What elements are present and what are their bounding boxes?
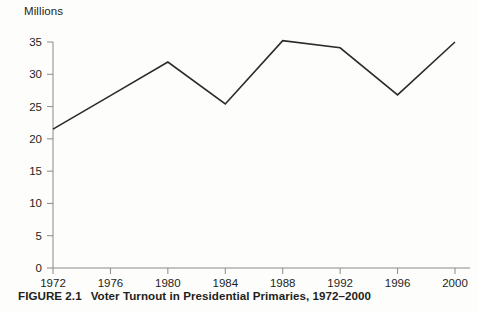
y-tick-label: 15	[29, 165, 42, 177]
y-tick-label: 35	[29, 36, 42, 48]
y-axis-ticks: 05101520253035	[29, 36, 53, 274]
x-axis-ticks: 19721976198019841988199219962000	[40, 268, 468, 289]
x-tick-label: 1992	[327, 277, 353, 289]
figure-caption: FIGURE 2.1Voter Turnout in Presidential …	[18, 289, 371, 302]
x-tick-label: 1976	[98, 277, 124, 289]
y-tick-label: 0	[36, 262, 42, 274]
x-tick-label: 1980	[155, 277, 181, 289]
figure-caption-text: Voter Turnout in Presidential Primaries,…	[91, 289, 371, 302]
y-tick-label: 5	[36, 230, 42, 242]
x-tick-label: 1996	[385, 277, 411, 289]
y-tick-label: 25	[29, 101, 42, 113]
figure-container: Millions 05101520253035 1972197619801984…	[0, 0, 478, 311]
data-series-line	[53, 41, 455, 129]
x-tick-label: 1984	[212, 277, 238, 289]
y-tick-label: 20	[29, 133, 42, 145]
x-tick-label: 1988	[270, 277, 296, 289]
y-tick-label: 10	[29, 197, 42, 209]
x-tick-label: 1972	[40, 277, 66, 289]
x-tick-label: 2000	[442, 277, 468, 289]
y-tick-label: 30	[29, 68, 42, 80]
line-chart: 05101520253035 1972197619801984198819921…	[0, 0, 478, 311]
figure-caption-number: FIGURE 2.1	[18, 289, 82, 302]
